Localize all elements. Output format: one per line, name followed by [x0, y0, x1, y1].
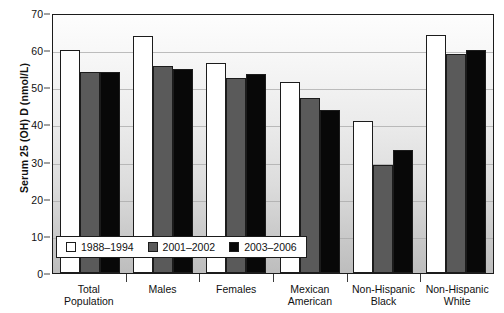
legend-label: 1988–1994 — [81, 241, 134, 253]
gray-swatch — [148, 242, 158, 252]
x-category-label: Males — [126, 283, 200, 313]
x-category-label: Females — [199, 283, 273, 313]
bar-group — [346, 15, 419, 273]
bar-chart-figure: Serum 25 (OH) D (nmol/L) 010203040506070… — [0, 0, 504, 313]
y-tick-mark — [44, 162, 50, 163]
x-category-label-line: Black — [347, 295, 421, 307]
y-tick-mark — [44, 236, 50, 237]
x-category-label: TotalPopulation — [52, 283, 126, 313]
x-category-label-line: Non-Hispanic — [347, 283, 421, 295]
y-tick-mark — [44, 14, 50, 15]
x-category-label-line: Females — [199, 283, 273, 295]
y-tick-mark — [44, 199, 50, 200]
bar — [446, 54, 466, 273]
x-category-label-line: Males — [126, 283, 200, 295]
legend-entry: 2001–2002 — [148, 241, 216, 253]
y-tick-mark — [44, 51, 50, 52]
bar-group — [200, 15, 273, 273]
white-swatch — [66, 242, 76, 252]
legend-entry: 1988–1994 — [66, 241, 134, 253]
legend-label: 2001–2002 — [163, 241, 216, 253]
bar-group — [126, 15, 199, 273]
category-separator — [347, 274, 348, 282]
category-separator — [126, 274, 127, 282]
x-category-label-line: Mexican — [273, 283, 347, 295]
black-swatch — [229, 242, 239, 252]
x-axis-category-labels: TotalPopulationMalesFemalesMexicanAmeric… — [52, 283, 494, 313]
bar-group — [273, 15, 346, 273]
x-category-label-line: Population — [52, 295, 126, 307]
bar — [466, 50, 486, 273]
legend-label: 2003–2006 — [244, 241, 297, 253]
category-separator — [420, 274, 421, 282]
bar — [353, 121, 373, 273]
y-tick-mark — [44, 274, 50, 275]
y-tick-mark — [44, 88, 50, 89]
x-category-label-line: White — [420, 295, 494, 307]
category-separator — [199, 274, 200, 282]
bar — [373, 165, 393, 273]
x-category-label: Non-HispanicBlack — [347, 283, 421, 313]
bar-group — [53, 15, 126, 273]
chart-legend: 1988–19942001–20022003–2006 — [56, 236, 307, 258]
y-tick-label: 10 — [31, 231, 43, 243]
category-separator — [273, 274, 274, 282]
y-tick-label: 60 — [31, 45, 43, 57]
y-tick-label: 40 — [31, 119, 43, 131]
bar-groups — [53, 15, 493, 273]
category-separators — [52, 274, 494, 283]
y-tick-label: 0 — [37, 268, 43, 280]
y-tick-mark — [44, 125, 50, 126]
x-category-label: Non-HispanicWhite — [420, 283, 494, 313]
x-category-label-line: Non-Hispanic — [420, 283, 494, 295]
bar-group — [420, 15, 493, 273]
y-axis-tick-labels: 010203040506070 — [0, 0, 52, 313]
legend-entry: 2003–2006 — [229, 241, 297, 253]
y-tick-label: 20 — [31, 194, 43, 206]
y-tick-label: 30 — [31, 157, 43, 169]
x-category-label-line: American — [273, 295, 347, 307]
bar — [320, 110, 340, 273]
bar — [393, 150, 413, 273]
y-tick-label: 50 — [31, 82, 43, 94]
x-category-label: MexicanAmerican — [273, 283, 347, 313]
x-category-label-line: Total — [52, 283, 126, 295]
bar — [426, 35, 446, 273]
plot-area — [52, 14, 494, 274]
y-tick-label: 70 — [31, 8, 43, 20]
